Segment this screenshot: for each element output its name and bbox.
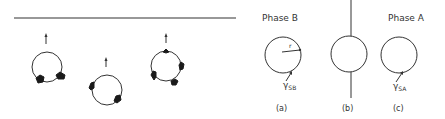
flux-marker-icon bbox=[114, 95, 121, 103]
phase-a-title: Phase A bbox=[388, 13, 425, 23]
radius-endpoint bbox=[299, 49, 301, 51]
flux-marker-icon bbox=[56, 72, 65, 79]
flux-marker-icon bbox=[151, 71, 156, 80]
phase-a-circle bbox=[381, 37, 417, 73]
caption-c: (c) bbox=[393, 104, 404, 113]
diagram-canvas: Phase B Phase A r γSB γSA bbox=[0, 0, 445, 119]
gamma-b-label: γSB bbox=[283, 80, 296, 91]
circle-c: γSA bbox=[381, 37, 417, 92]
radius-line bbox=[282, 50, 300, 52]
left-panel bbox=[14, 18, 236, 105]
radius-label: r bbox=[289, 42, 292, 49]
phase-b-title: Phase B bbox=[262, 13, 298, 23]
circle-b bbox=[331, 0, 367, 98]
circle-a: r γSB bbox=[265, 37, 301, 91]
caption-a: (a) bbox=[276, 104, 287, 113]
flux-marker-icon bbox=[36, 75, 44, 83]
right-panel: Phase B Phase A r γSB γSA bbox=[262, 0, 425, 113]
ring-3 bbox=[151, 33, 184, 85]
arrowhead-icon bbox=[165, 33, 168, 37]
interface-circle bbox=[331, 36, 367, 72]
ring-2 bbox=[89, 57, 122, 105]
gamma-a-label: γSA bbox=[393, 81, 407, 92]
arrowhead-icon bbox=[45, 33, 48, 37]
phase-b-circle bbox=[265, 37, 301, 73]
flux-marker-icon bbox=[163, 49, 169, 53]
arrowhead-icon bbox=[105, 57, 108, 61]
flux-marker-icon bbox=[89, 82, 94, 90]
ring-1 bbox=[32, 33, 65, 83]
caption-b: (b) bbox=[342, 104, 353, 113]
flux-marker-icon bbox=[179, 62, 184, 70]
